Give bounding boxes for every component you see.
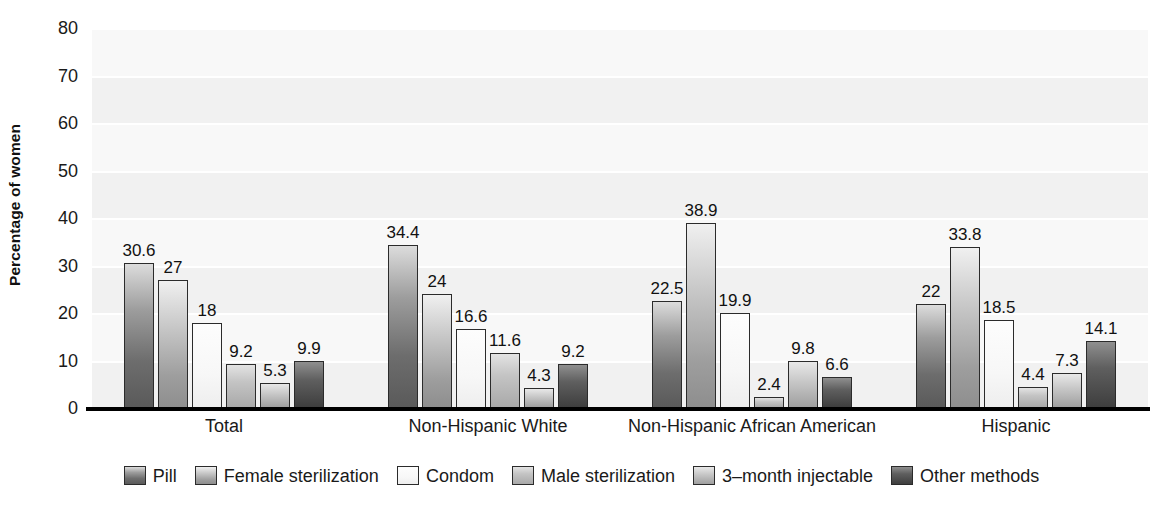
bar xyxy=(652,301,682,408)
grid-band xyxy=(92,76,1148,124)
y-axis-tick-50: 50 xyxy=(58,162,78,180)
y-axis-tick-10: 10 xyxy=(58,352,78,370)
legend-label: Female sterilization xyxy=(224,467,379,485)
grid-band xyxy=(92,28,1148,76)
legend-item[interactable]: Male sterilization xyxy=(512,466,675,485)
x-axis-category-label: Non-Hispanic White xyxy=(408,416,567,437)
bar xyxy=(1086,341,1116,408)
bar-value-label: 4.4 xyxy=(1021,366,1045,383)
bar-value-label: 5.3 xyxy=(263,362,287,379)
legend-item[interactable]: 3–month injectable xyxy=(693,466,873,485)
y-axis-tick-80: 80 xyxy=(58,19,78,37)
bar xyxy=(260,383,290,408)
bar xyxy=(456,329,486,408)
y-axis-tick-70: 70 xyxy=(58,67,78,85)
bar-value-label: 19.9 xyxy=(718,292,751,309)
y-axis-tick-labels: 01020304050607080 xyxy=(34,0,86,415)
y-axis-tick-20: 20 xyxy=(58,304,78,322)
bar xyxy=(984,320,1014,408)
legend-swatch-icon xyxy=(124,466,146,485)
bar-value-label: 9.8 xyxy=(791,340,815,357)
bar xyxy=(822,377,852,408)
legend-item[interactable]: Condom xyxy=(397,466,494,485)
legend-label: Condom xyxy=(426,467,494,485)
legend-label: Other methods xyxy=(920,467,1039,485)
x-axis-category-label: Total xyxy=(205,416,243,437)
y-axis-tick-0: 0 xyxy=(68,399,78,417)
legend-item[interactable]: Female sterilization xyxy=(195,466,379,485)
bar-value-label: 9.2 xyxy=(229,343,253,360)
bar-value-label: 9.9 xyxy=(297,340,321,357)
bar xyxy=(158,280,188,408)
x-axis-category-label: Non-Hispanic African American xyxy=(628,416,876,437)
legend-swatch-icon xyxy=(891,466,913,485)
legend-swatch-icon xyxy=(693,466,715,485)
grid-band xyxy=(92,171,1148,219)
bar xyxy=(192,323,222,409)
bar xyxy=(490,353,520,408)
y-axis-title: Percentage of women xyxy=(0,0,30,410)
bar-value-label: 22 xyxy=(922,283,941,300)
bar xyxy=(788,361,818,408)
bar-value-label: 18 xyxy=(198,302,217,319)
bar xyxy=(558,364,588,408)
bar-value-label: 4.3 xyxy=(527,367,551,384)
x-axis-line xyxy=(86,407,1150,411)
bar-value-label: 7.3 xyxy=(1055,352,1079,369)
bar xyxy=(720,313,750,408)
legend-swatch-icon xyxy=(397,466,419,485)
bar-value-label: 30.6 xyxy=(122,242,155,259)
legend-item[interactable]: Pill xyxy=(124,466,177,485)
bar-value-label: 16.6 xyxy=(454,308,487,325)
bar-value-label: 34.4 xyxy=(386,224,419,241)
legend-label: Pill xyxy=(153,467,177,485)
bar xyxy=(950,247,980,408)
plot-area: 30.627189.25.39.934.42416.611.64.39.222.… xyxy=(92,28,1148,408)
bar-chart: Percentage of women 01020304050607080 30… xyxy=(0,0,1163,515)
bar-value-label: 27 xyxy=(164,259,183,276)
bar-value-label: 2.4 xyxy=(757,376,781,393)
bar xyxy=(1018,387,1048,408)
y-axis-tick-40: 40 xyxy=(58,209,78,227)
bar xyxy=(422,294,452,408)
bar xyxy=(226,364,256,408)
bar-value-label: 18.5 xyxy=(982,299,1015,316)
legend-label: 3–month injectable xyxy=(722,467,873,485)
bar-value-label: 22.5 xyxy=(650,280,683,297)
legend-swatch-icon xyxy=(512,466,534,485)
y-axis-tick-30: 30 xyxy=(58,257,78,275)
y-axis-tick-60: 60 xyxy=(58,114,78,132)
bar xyxy=(294,361,324,408)
bar xyxy=(524,388,554,408)
legend: PillFemale sterilizationCondomMale steri… xyxy=(0,466,1163,485)
bar xyxy=(388,245,418,408)
bar xyxy=(916,304,946,409)
legend-swatch-icon xyxy=(195,466,217,485)
bar-value-label: 11.6 xyxy=(489,332,521,349)
legend-item[interactable]: Other methods xyxy=(891,466,1039,485)
bar-value-label: 24 xyxy=(428,273,447,290)
y-axis-title-text: Percentage of women xyxy=(6,124,24,286)
bar-value-label: 38.9 xyxy=(684,202,717,219)
bar xyxy=(124,263,154,408)
x-axis-category-label: Hispanic xyxy=(981,416,1050,437)
bar-value-label: 14.1 xyxy=(1084,320,1117,337)
bar-value-label: 33.8 xyxy=(948,226,981,243)
grid-band xyxy=(92,123,1148,171)
legend-label: Male sterilization xyxy=(541,467,675,485)
x-axis-category-labels: TotalNon-Hispanic WhiteNon-Hispanic Afri… xyxy=(92,416,1148,446)
bar xyxy=(686,223,716,408)
bar xyxy=(1052,373,1082,408)
bar-value-label: 6.6 xyxy=(825,356,849,373)
bar-value-label: 9.2 xyxy=(561,343,585,360)
grid-band xyxy=(92,218,1148,266)
